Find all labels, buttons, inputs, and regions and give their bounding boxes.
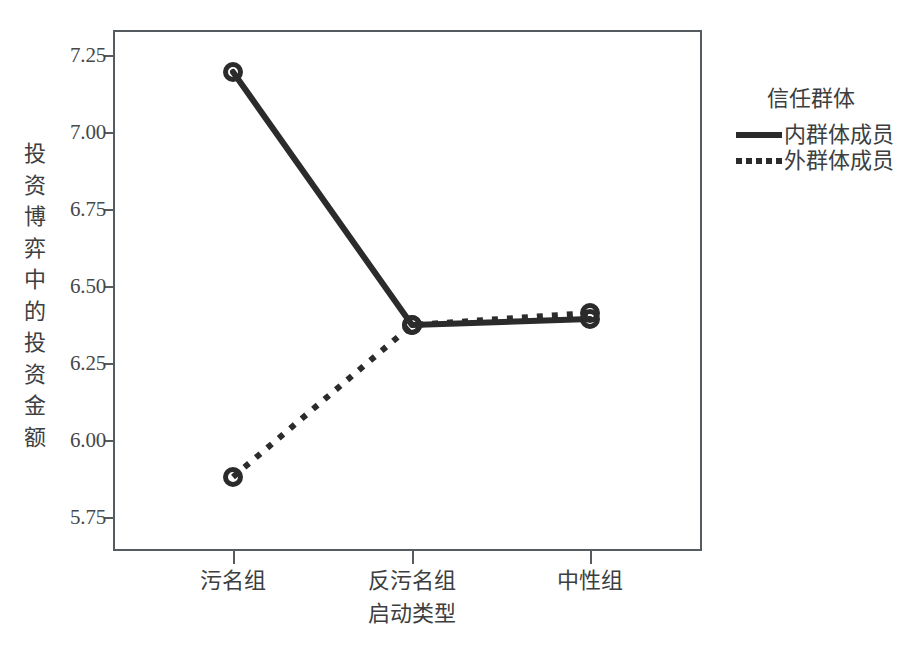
series-markers-ingroup bbox=[226, 65, 598, 333]
x-tick-label: 中性组 bbox=[557, 567, 623, 595]
legend-item-outgroup: 外群体成员 bbox=[736, 148, 886, 174]
y-tick-label: 7.25 bbox=[70, 45, 106, 66]
legend: 信任群体 内群体成员 外群体成员 bbox=[736, 86, 886, 174]
x-axis-title: 启动类型 bbox=[368, 600, 456, 628]
series-markers-outgroup bbox=[226, 306, 598, 485]
y-tick-label: 7.00 bbox=[70, 122, 106, 143]
legend-item-ingroup: 内群体成员 bbox=[736, 122, 886, 148]
series-line-outgroup bbox=[233, 313, 590, 477]
y-axis-title: 投资博弈中的投资金额 bbox=[18, 138, 52, 453]
data-series-layer bbox=[113, 30, 702, 551]
y-tick-label: 6.25 bbox=[70, 353, 106, 374]
x-tick-mark bbox=[412, 551, 414, 564]
y-tick-label: 5.75 bbox=[70, 507, 106, 528]
y-tick-label: 6.00 bbox=[70, 430, 106, 451]
legend-label: 内群体成员 bbox=[784, 122, 894, 148]
series-line-ingroup bbox=[233, 72, 590, 325]
legend-key-solid-line-icon bbox=[736, 128, 782, 142]
legend-key-dotted-line-icon bbox=[736, 154, 782, 168]
line-chart-figure: 7.25 7.00 6.75 6.50 6.25 6.00 5.75 投资博弈中… bbox=[0, 0, 897, 649]
legend-title: 信任群体 bbox=[736, 86, 886, 112]
x-tick-label: 反污名组 bbox=[368, 567, 456, 595]
x-tick-mark bbox=[590, 551, 592, 564]
y-tick-label: 6.75 bbox=[70, 199, 106, 220]
y-tick-label: 6.50 bbox=[70, 276, 106, 297]
x-tick-mark bbox=[233, 551, 235, 564]
x-tick-label: 污名组 bbox=[200, 567, 266, 595]
legend-label: 外群体成员 bbox=[784, 148, 894, 174]
